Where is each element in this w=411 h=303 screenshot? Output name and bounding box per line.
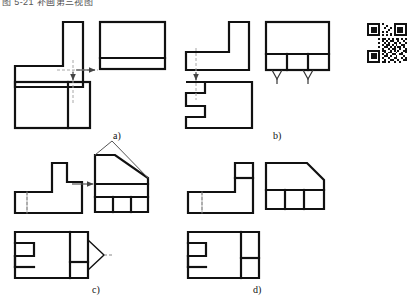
panel-b-front-view bbox=[186, 22, 249, 70]
panel-a-top-view bbox=[15, 82, 90, 128]
panel-a-side-view bbox=[100, 22, 165, 69]
panel-d-front-view bbox=[188, 163, 253, 213]
technical-drawing-figure bbox=[0, 0, 411, 303]
panel-b-chamfer-ticks bbox=[272, 70, 313, 84]
panel-label-a: a) bbox=[113, 130, 121, 141]
panel-c-top-view bbox=[15, 232, 104, 278]
panel-label-c: c) bbox=[92, 284, 100, 295]
panel-c-side-view bbox=[95, 155, 148, 212]
panel-d-side-view bbox=[266, 163, 324, 209]
qr-code[interactable] bbox=[367, 22, 407, 64]
panel-b-side-view bbox=[266, 22, 329, 70]
panel-label-d: d) bbox=[253, 284, 261, 295]
qr-code-image bbox=[367, 22, 407, 64]
panel-c-front-view bbox=[15, 163, 82, 213]
panel-d-top-view bbox=[188, 232, 259, 278]
panel-label-b: b) bbox=[273, 130, 281, 141]
drawing-canvas bbox=[0, 0, 411, 303]
